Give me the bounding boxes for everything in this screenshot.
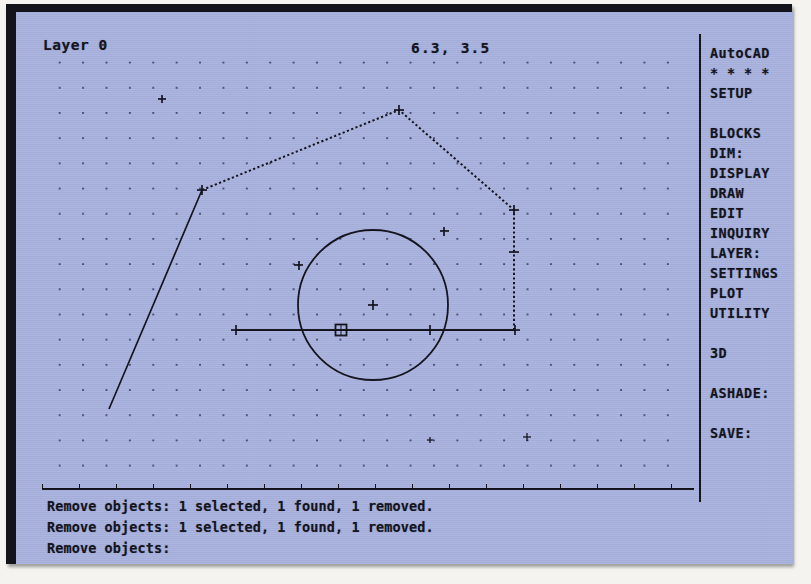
circle-center-marker bbox=[368, 300, 378, 310]
command-line-2: Remove objects: 1 selected, 1 found, 1 r… bbox=[47, 519, 434, 535]
menu-item-dim[interactable]: DIM: bbox=[710, 145, 744, 161]
menu-item-plot[interactable]: PLOT bbox=[710, 285, 744, 301]
menu-item-autocad-root[interactable]: AutoCAD bbox=[710, 45, 770, 61]
circle-pick-mark-upper-right bbox=[440, 227, 449, 236]
line-left-endpoint bbox=[231, 325, 241, 335]
drawing-entities bbox=[16, 12, 694, 482]
menu-item-display[interactable]: DISPLAY bbox=[710, 165, 770, 181]
line-right-endpoint bbox=[510, 325, 520, 335]
menu-item-layer[interactable]: LAYER: bbox=[710, 245, 761, 261]
menu-item-utility[interactable]: UTILITY bbox=[710, 305, 770, 321]
stray-marker-upper-left bbox=[158, 95, 166, 103]
menu-item-edit[interactable]: EDIT bbox=[710, 205, 744, 221]
wall-roof-vertex bbox=[197, 185, 207, 195]
side-menu-divider bbox=[699, 34, 701, 502]
circle-pick-mark-left bbox=[294, 261, 303, 270]
menu-item-settings[interactable]: SETTINGS bbox=[710, 265, 778, 281]
roof-and-right-wall-highlighted[interactable] bbox=[202, 110, 514, 332]
command-area-divider bbox=[42, 488, 694, 490]
menu-item-inquiry[interactable]: INQUIRY bbox=[710, 225, 770, 241]
layer-status-label[interactable]: Layer 0 bbox=[43, 37, 108, 53]
menu-item-blocks[interactable]: BLOCKS bbox=[710, 125, 761, 141]
grip-markers-group bbox=[158, 95, 531, 443]
graphics-drawing-area[interactable]: Layer 0 6.3, 3.5 bbox=[16, 12, 694, 482]
left-wall-line[interactable] bbox=[109, 190, 202, 409]
menu-item-setup[interactable]: SETUP bbox=[710, 85, 753, 101]
menu-item-save[interactable]: SAVE: bbox=[710, 425, 753, 441]
stray-marker-lower bbox=[427, 437, 433, 443]
menu-item-3d[interactable]: 3D bbox=[710, 345, 727, 361]
monitor-bezel: Layer 0 6.3, 3.5 AutoCAD* * * *SETUPBLOC… bbox=[6, 4, 792, 564]
command-prompt-area[interactable]: Remove objects: 1 selected, 1 found, 1 r… bbox=[16, 494, 694, 564]
menu-item-ashade[interactable]: ASHADE: bbox=[710, 385, 770, 401]
autocad-screen: Layer 0 6.3, 3.5 AutoCAD* * * *SETUPBLOC… bbox=[16, 12, 794, 564]
coordinate-readout[interactable]: 6.3, 3.5 bbox=[411, 40, 490, 56]
menu-item-draw[interactable]: DRAW bbox=[710, 185, 744, 201]
screenshot-page: Layer 0 6.3, 3.5 AutoCAD* * * *SETUPBLOC… bbox=[0, 0, 811, 584]
pick-box-cursor[interactable] bbox=[336, 325, 347, 336]
command-line-3: Remove objects: bbox=[47, 540, 170, 556]
menu-item-osnap-asterisks[interactable]: * * * * bbox=[710, 65, 770, 81]
stray-marker-lower-right bbox=[523, 433, 531, 441]
command-line-1: Remove objects: 1 selected, 1 found, 1 r… bbox=[47, 498, 434, 514]
